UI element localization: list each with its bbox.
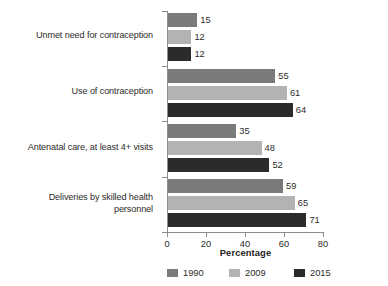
bar-value-label: 65 [298, 198, 308, 208]
category-label: Antenatal care, at least 4+ visits [28, 142, 153, 154]
legend-swatch-icon [294, 269, 305, 277]
bar [168, 103, 293, 117]
category-label: Deliveries by skilled health personnel [49, 192, 153, 215]
legend-label: 2015 [310, 268, 331, 278]
y-axis-tick [162, 121, 167, 122]
y-axis-tick [162, 177, 167, 178]
bar-value-label: 35 [239, 126, 249, 136]
category-axis-labels: Unmet need for contraception Use of cont… [0, 0, 160, 232]
x-axis-tick [284, 232, 285, 237]
bar [168, 13, 197, 27]
y-axis-tick [162, 66, 167, 67]
legend-label: 2009 [245, 268, 266, 278]
chart-legend: 1990 2009 2015 [167, 266, 342, 280]
bar [168, 69, 275, 83]
bar-value-label: 48 [265, 143, 275, 153]
bar [168, 47, 191, 61]
bar-value-label: 12 [194, 49, 204, 59]
bar-value-label: 52 [272, 160, 282, 170]
bar [168, 179, 283, 193]
category-label: Use of contraception [72, 86, 153, 98]
bar [168, 86, 287, 100]
bar [168, 158, 269, 172]
bar-value-label: 71 [309, 215, 319, 225]
x-axis-tick [167, 232, 168, 237]
bar [168, 141, 262, 155]
legend-item-2015[interactable]: 2015 [294, 266, 331, 280]
x-axis-tick [206, 232, 207, 237]
bar-chart: Unmet need for contraception Use of cont… [0, 0, 388, 286]
category-label: Unmet need for contraception [36, 30, 153, 42]
bar [168, 30, 191, 44]
bar-value-label: 64 [296, 105, 306, 115]
bar-value-label: 61 [290, 88, 300, 98]
bar [168, 213, 306, 227]
x-axis-title: Percentage [167, 247, 324, 258]
x-axis-tick [323, 232, 324, 237]
bar [168, 124, 236, 138]
bar-value-label: 55 [278, 71, 288, 81]
bar-value-label: 12 [194, 32, 204, 42]
legend-item-2009[interactable]: 2009 [229, 266, 266, 280]
bar-value-label: 15 [200, 15, 210, 25]
legend-label: 1990 [183, 268, 204, 278]
bar-value-label: 59 [286, 181, 296, 191]
x-axis-tick [245, 232, 246, 237]
legend-item-1990[interactable]: 1990 [167, 266, 204, 280]
plot-area: 0 20 40 60 80 151212556164354852596571 [167, 11, 323, 232]
bar [168, 196, 295, 210]
legend-swatch-icon [229, 269, 240, 277]
legend-swatch-icon [167, 269, 178, 277]
y-axis-tick [162, 11, 167, 12]
